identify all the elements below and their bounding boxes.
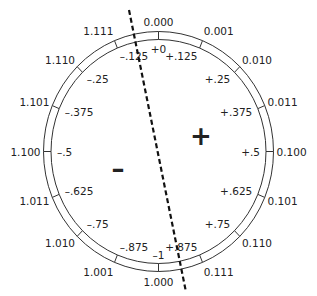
bit-pattern-label: 0.011 bbox=[268, 96, 298, 108]
ring-tick bbox=[52, 194, 59, 197]
value-label: –.5 bbox=[57, 146, 72, 158]
bit-pattern-label: 1.111 bbox=[83, 25, 113, 37]
value-label: –.125 bbox=[120, 50, 149, 62]
bit-pattern-label: 0.100 bbox=[277, 146, 307, 158]
value-label: +.75 bbox=[205, 218, 231, 230]
positive-region-sign: + bbox=[190, 121, 212, 151]
bit-pattern-label: 0.010 bbox=[242, 54, 272, 66]
ring-tick bbox=[235, 67, 240, 73]
value-label: –.625 bbox=[65, 185, 94, 197]
ring-tick bbox=[200, 255, 203, 262]
value-label: +.875 bbox=[165, 241, 197, 253]
value-label: +.5 bbox=[241, 146, 260, 158]
value-label: +.625 bbox=[220, 185, 252, 197]
ring-tick bbox=[258, 194, 265, 197]
ring-tick bbox=[77, 231, 82, 237]
bit-pattern-label: 1.100 bbox=[10, 146, 40, 158]
bit-pattern-label: 1.110 bbox=[45, 54, 75, 66]
ring-tick bbox=[52, 106, 59, 109]
ring-tick bbox=[258, 106, 265, 109]
negative-region-sign: – bbox=[112, 154, 125, 184]
bit-pattern-label: 0.111 bbox=[204, 266, 234, 278]
value-label: –.875 bbox=[120, 241, 149, 253]
ring-tick bbox=[235, 231, 240, 237]
bit-pattern-label: 1.010 bbox=[45, 237, 75, 249]
value-label: +.125 bbox=[165, 50, 197, 62]
ring-tick bbox=[114, 255, 117, 262]
bit-pattern-label: 1.001 bbox=[83, 266, 113, 278]
value-label: –.375 bbox=[65, 106, 94, 118]
bit-pattern-label: 1.000 bbox=[143, 276, 173, 288]
value-label: –.25 bbox=[87, 73, 109, 85]
bit-pattern-label: 1.011 bbox=[19, 195, 49, 207]
ring-tick bbox=[77, 67, 82, 73]
bit-pattern-label: 1.101 bbox=[19, 96, 49, 108]
value-label: –.75 bbox=[87, 218, 109, 230]
value-label: +.375 bbox=[220, 106, 252, 118]
bit-pattern-label: 0.101 bbox=[268, 195, 298, 207]
value-label: –1 bbox=[153, 249, 165, 261]
value-label: +0 bbox=[151, 43, 166, 55]
bit-pattern-label: 0.001 bbox=[204, 25, 234, 37]
ring-tick bbox=[200, 41, 203, 48]
value-label: +.25 bbox=[205, 73, 231, 85]
bit-pattern-label: 0.000 bbox=[143, 16, 173, 28]
bit-pattern-label: 0.110 bbox=[242, 237, 272, 249]
ring-tick bbox=[114, 41, 117, 48]
twos-complement-circle-diagram: 0.0000.0010.0100.0110.1000.1010.1100.111… bbox=[0, 0, 317, 296]
